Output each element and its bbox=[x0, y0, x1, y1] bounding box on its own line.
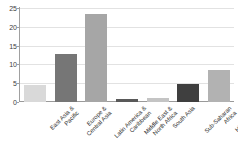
x-axis-label-text: High-income bbox=[234, 105, 238, 134]
y-axis-ticks: 0510152025 bbox=[0, 0, 17, 153]
bar bbox=[85, 14, 107, 102]
y-tick-label-0: 0 bbox=[1, 99, 17, 106]
x-axis-label-text: East Asia &Pacific bbox=[49, 105, 81, 137]
x-axis-label-text: Europe &Central Asia bbox=[80, 105, 113, 138]
bar bbox=[55, 54, 77, 102]
y-tick-mark-0 bbox=[17, 102, 19, 103]
y-tick-label-20: 20 bbox=[1, 23, 17, 30]
y-tick-label-25: 25 bbox=[1, 5, 17, 12]
y-tick-label-5: 5 bbox=[1, 80, 17, 87]
plot-bars bbox=[20, 8, 234, 102]
y-tick-label-10: 10 bbox=[1, 61, 17, 68]
bar bbox=[177, 84, 199, 102]
bar-chart: 0510152025 East Asia &PacificEurope &Cen… bbox=[0, 0, 238, 153]
bars-layer bbox=[20, 8, 234, 102]
x-axis-label-text: Sub-SaharanAfrica bbox=[203, 105, 238, 140]
bar bbox=[208, 70, 230, 102]
bar bbox=[24, 85, 46, 102]
x-axis-category-labels: East Asia &PacificEurope &Central AsiaLa… bbox=[20, 102, 234, 153]
y-tick-label-15: 15 bbox=[1, 42, 17, 49]
